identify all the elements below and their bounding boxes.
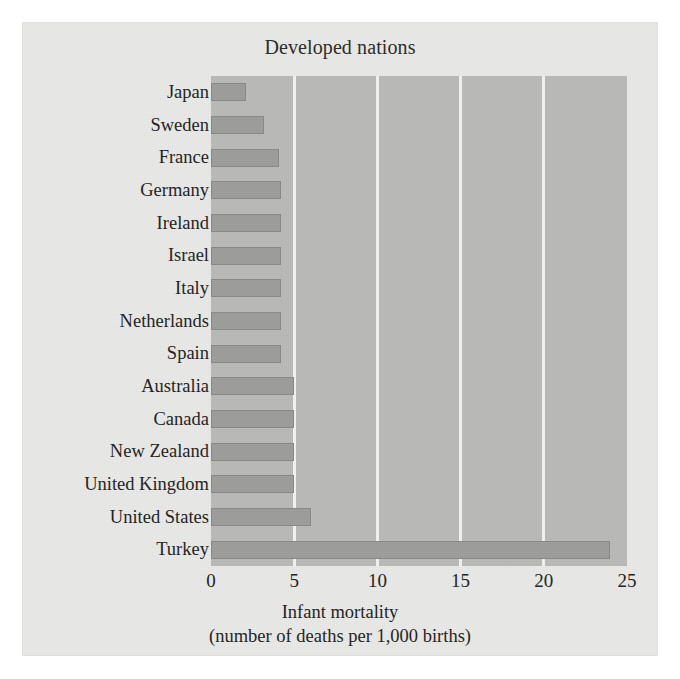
x-tick-label: 5	[289, 570, 299, 592]
bar-row	[211, 109, 627, 142]
category-label: Canada	[52, 403, 211, 436]
category-label: Germany	[52, 174, 211, 207]
category-label: Turkey	[52, 533, 211, 566]
bar	[211, 149, 279, 167]
category-label: Ireland	[52, 207, 211, 240]
category-label: United States	[52, 501, 211, 534]
category-label: Israel	[52, 239, 211, 272]
bar-series	[211, 76, 627, 566]
category-label: Italy	[52, 272, 211, 305]
category-label: Sweden	[52, 109, 211, 142]
x-axis-subtitle: (number of deaths per 1,000 births)	[22, 624, 658, 648]
category-axis-labels: JapanSwedenFranceGermanyIrelandIsraelIta…	[52, 76, 211, 566]
chart-title: Developed nations	[22, 36, 658, 59]
bar-row	[211, 305, 627, 338]
bar-row	[211, 174, 627, 207]
x-tick-label: 15	[451, 570, 470, 592]
x-tick-label: 20	[534, 570, 553, 592]
bar	[211, 83, 246, 101]
bar	[211, 410, 294, 428]
bar	[211, 508, 311, 526]
bar	[211, 312, 281, 330]
bar	[211, 181, 281, 199]
bar-row	[211, 207, 627, 240]
bar	[211, 377, 294, 395]
bar-row	[211, 370, 627, 403]
category-label: Spain	[52, 337, 211, 370]
bar	[211, 541, 610, 559]
bar	[211, 214, 281, 232]
x-axis-caption: Infant mortality (number of deaths per 1…	[22, 600, 658, 649]
bar	[211, 443, 294, 461]
bar-row	[211, 533, 627, 566]
bar-row	[211, 141, 627, 174]
bar-row	[211, 501, 627, 534]
bar-row	[211, 337, 627, 370]
bar-row	[211, 76, 627, 109]
bar-row	[211, 468, 627, 501]
bar-row	[211, 239, 627, 272]
bar	[211, 116, 264, 134]
category-label: New Zealand	[52, 435, 211, 468]
category-label: Australia	[52, 370, 211, 403]
bar	[211, 345, 281, 363]
bar	[211, 247, 281, 265]
x-tick-label: 10	[368, 570, 387, 592]
bar-row	[211, 403, 627, 436]
bar-row	[211, 435, 627, 468]
bar-row	[211, 272, 627, 305]
x-axis-tick-labels: 0510152025	[211, 570, 627, 596]
x-tick-label: 25	[618, 570, 637, 592]
x-axis-title: Infant mortality	[22, 600, 658, 624]
plot-area	[211, 76, 627, 566]
bar	[211, 279, 281, 297]
category-label: United Kingdom	[52, 468, 211, 501]
chart-figure: Developed nations JapanSwedenFranceGerma…	[22, 22, 658, 656]
category-label: France	[52, 141, 211, 174]
x-tick-label: 0	[206, 570, 216, 592]
bar	[211, 475, 294, 493]
category-label: Japan	[52, 76, 211, 109]
category-label: Netherlands	[52, 305, 211, 338]
